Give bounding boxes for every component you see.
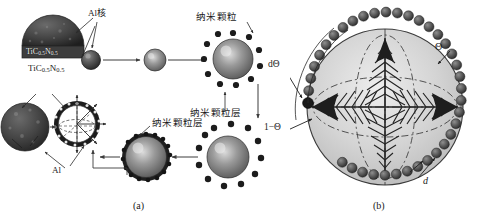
- al-core-sphere-small: [82, 51, 101, 70]
- panel-b-graphics: [290, 0, 477, 224]
- figure-container: TiC0.5N0.5 Al核 TiC0.5N0.5 Al 纳米颗粒 纳米颗粒层 …: [0, 0, 477, 224]
- leader-al-core-to-sphere: [92, 22, 97, 48]
- dense-shell-particle: [121, 132, 173, 183]
- panel-b: Θ dΘ 1−Θ d (b): [290, 0, 477, 224]
- panel-a-graphics: [0, 0, 290, 224]
- leader-ticn-lower-to-shell: [52, 94, 66, 109]
- label-ticn-lower: TiC0.5N0.5: [28, 64, 64, 74]
- loose-coated-particle: [196, 121, 264, 189]
- ticn-rough-sphere: [1, 103, 49, 151]
- label-al-core: Al核: [88, 9, 106, 18]
- ticn-band-label: TiC0.5N0.5: [26, 47, 58, 56]
- arrow-dense-to-shell-detail: [93, 150, 127, 175]
- leader-d-theta: [290, 68, 302, 98]
- label-nanoparticle: 纳米颗粒: [196, 12, 237, 22]
- label-nanoparticle-layer-lower: 纳米颗粒层: [152, 118, 204, 128]
- caption-panel-b: (b): [373, 200, 385, 211]
- caption-panel-a: (a): [133, 200, 144, 211]
- label-d-theta: dΘ: [268, 60, 280, 70]
- panel-a: TiC0.5N0.5 Al核 TiC0.5N0.5 Al 纳米颗粒 纳米颗粒层 …: [0, 0, 290, 224]
- leader-al-core-to-hemisphere: [76, 18, 93, 33]
- coated-particle-top-right: [201, 30, 263, 88]
- label-al-shell: Al: [52, 166, 61, 175]
- leader-nanoparticle: [247, 22, 253, 33]
- label-d: d: [423, 176, 428, 186]
- label-one-minus-theta: 1−Θ: [264, 123, 281, 133]
- intermediate-sphere: [144, 49, 166, 71]
- label-theta: Θ: [435, 42, 442, 52]
